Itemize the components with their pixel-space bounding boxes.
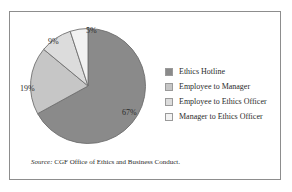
- legend-item-ethics-hotline: Ethics Hotline: [165, 65, 280, 78]
- pie-slice-label-1: 19%: [20, 85, 35, 93]
- legend-label-2: Employee to Ethics Officer: [179, 97, 267, 107]
- pie-slice-label-3: 5%: [86, 27, 97, 35]
- legend-item-manager-to-ethics-officer: Manager to Ethics Officer: [165, 110, 280, 123]
- pie-slice-label-0: 67%: [122, 109, 137, 117]
- legend-swatch-icon-0: [165, 68, 173, 76]
- figure-frame: 67% 19% 9% 5% Ethics Hotline Employee to…: [9, 11, 281, 180]
- legend-label-0: Ethics Hotline: [179, 67, 225, 77]
- chart-legend: Ethics Hotline Employee to Manager Emplo…: [165, 65, 280, 125]
- legend-label-3: Manager to Ethics Officer: [179, 112, 263, 122]
- legend-label-1: Employee to Manager: [179, 82, 250, 92]
- legend-item-employee-to-manager: Employee to Manager: [165, 80, 280, 93]
- pie-slice-label-2: 9%: [48, 38, 59, 46]
- chart-plot-area: 67% 19% 9% 5% Ethics Hotline Employee to…: [10, 12, 282, 154]
- pie-chart-svg: [29, 27, 147, 145]
- legend-item-employee-to-ethics-officer: Employee to Ethics Officer: [165, 95, 280, 108]
- source-note: Source: CGF Office of Ethics and Busines…: [31, 158, 180, 166]
- source-text: CGF Office of Ethics and Business Conduc…: [54, 158, 180, 166]
- legend-swatch-icon-1: [165, 83, 173, 91]
- legend-swatch-icon-3: [165, 113, 173, 121]
- pie-chart: [29, 27, 147, 145]
- legend-swatch-icon-2: [165, 98, 173, 106]
- source-label: Source:: [31, 158, 53, 166]
